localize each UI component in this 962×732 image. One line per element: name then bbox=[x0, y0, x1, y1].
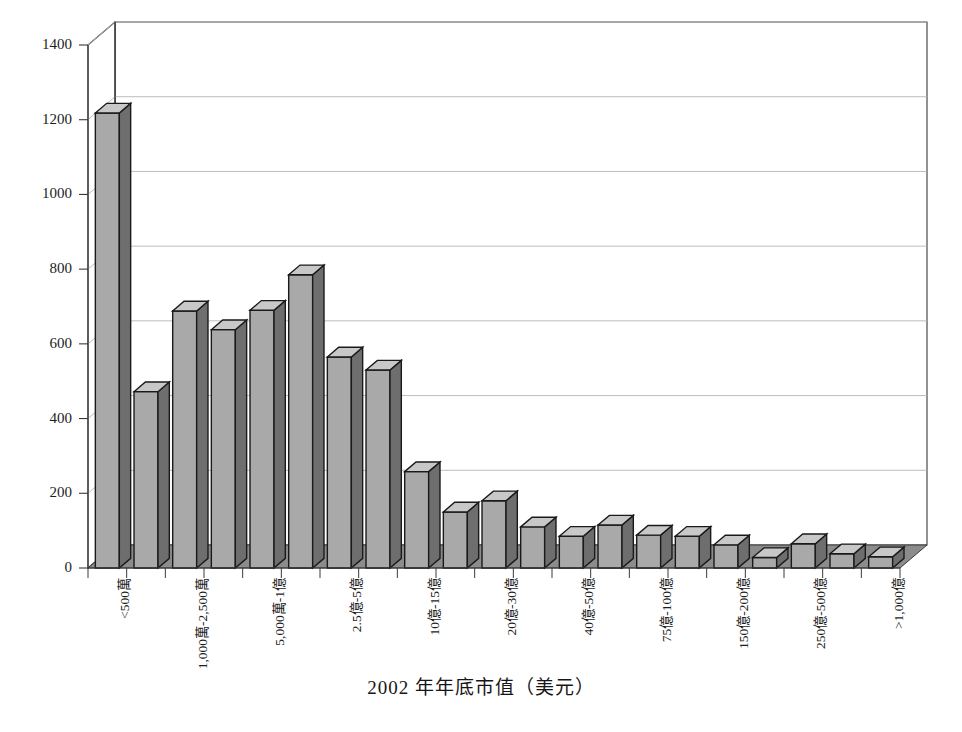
x-tick-label: 1,000萬-2,500萬 bbox=[191, 578, 211, 669]
x-tick-label: 5,000萬-1億 bbox=[268, 578, 288, 646]
x-tick-label: >1,000億 bbox=[887, 578, 907, 629]
x-tick-label: 250億-500億 bbox=[809, 578, 829, 649]
x-tick-label: 2.5億-5億 bbox=[345, 578, 365, 632]
x-tick-label: 10億-15億 bbox=[423, 578, 443, 636]
x-axis-tick-labels: <500萬1,000萬-2,500萬5,000萬-1億2.5億-5億10億-15… bbox=[0, 0, 962, 732]
x-tick-label: <500萬 bbox=[113, 578, 133, 619]
bar-chart-figure: 0200400600800100012001400 <500萬1,000萬-2,… bbox=[0, 0, 962, 732]
x-tick-label: 20億-30億 bbox=[500, 578, 520, 636]
x-tick-label: 40億-50億 bbox=[577, 578, 597, 636]
x-axis-title: 2002 年年底市值（美元） bbox=[0, 672, 962, 699]
x-tick-label: 150億-200億 bbox=[732, 578, 752, 649]
x-tick-label: 75億-100億 bbox=[655, 578, 675, 642]
plot-area: 0200400600800100012001400 <500萬1,000萬-2,… bbox=[0, 0, 962, 732]
